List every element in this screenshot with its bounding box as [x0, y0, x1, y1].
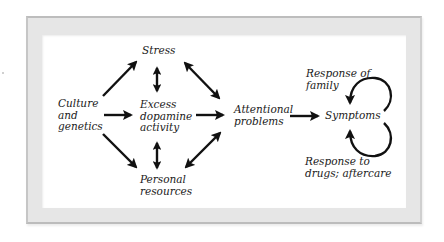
node-stress: Stress — [142, 45, 175, 57]
node-personal-resources: Personal resources — [140, 174, 192, 197]
node-symptoms: Symptoms — [325, 110, 381, 122]
node-response-drugs: Response to drugs; aftercare — [305, 156, 391, 179]
arrow-personal-attentional — [186, 133, 220, 167]
arrow-stress-attentional — [185, 63, 219, 98]
arrow-culture-personal — [103, 134, 136, 167]
loop-drugs — [350, 123, 391, 156]
node-response-family: Response of family — [306, 68, 370, 91]
node-culture-genetics: Culture and genetics — [58, 98, 103, 133]
node-excess-dopamine: Excess dopamine activity — [140, 99, 192, 134]
node-attentional-problems: Attentional problems — [234, 104, 293, 127]
arrow-culture-stress — [103, 62, 136, 96]
